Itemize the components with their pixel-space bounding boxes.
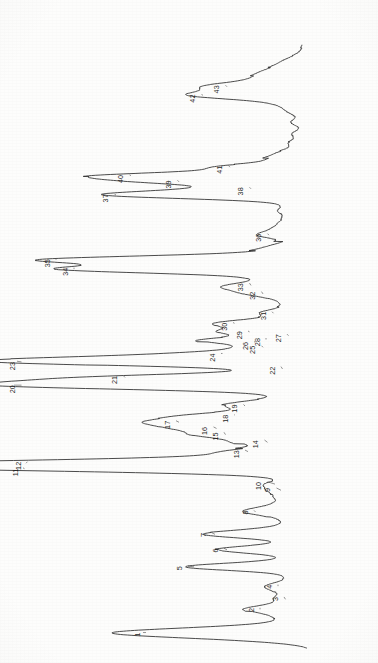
peak-leader-line <box>262 292 264 294</box>
peak-leader-line <box>244 404 246 406</box>
peak-label-32: 32 <box>248 292 257 300</box>
peak-leader-line <box>178 180 180 182</box>
peak-leader-line <box>284 597 286 599</box>
peak-leader-line <box>245 450 248 452</box>
peak-label-39: 39 <box>164 180 173 188</box>
peak-label-40: 40 <box>116 175 125 183</box>
peak-label-14: 14 <box>251 440 260 448</box>
peak-label-1: 1 <box>133 633 142 637</box>
peak-label-7: 7 <box>199 533 208 537</box>
peak-label-23: 23 <box>8 362 17 370</box>
chromatogram-figure: 1234567891011121314151617181920212223242… <box>0 0 378 663</box>
peak-label-21: 21 <box>110 376 119 384</box>
peak-leader-line <box>265 440 268 442</box>
peak-leader-line <box>130 175 132 176</box>
peak-label-20: 20 <box>8 385 17 393</box>
peak-leader-line <box>287 334 289 336</box>
peak-leader-line <box>224 548 227 550</box>
peak-label-8: 8 <box>241 510 250 514</box>
peak-label-18: 18 <box>221 415 230 423</box>
peak-label-38: 38 <box>236 187 245 195</box>
peak-label-33: 33 <box>236 283 245 291</box>
peak-leader-line <box>226 85 228 87</box>
peak-label-43: 43 <box>212 85 221 93</box>
peak-label-42: 42 <box>188 94 197 102</box>
peak-label-6: 6 <box>211 548 220 552</box>
peak-label-36: 36 <box>254 234 263 242</box>
chromatogram-plot: 1234567891011121314151617181920212223242… <box>0 0 378 663</box>
peak-label-10: 10 <box>254 482 263 490</box>
peak-label-31: 31 <box>259 312 268 320</box>
peak-leader-line <box>229 166 231 168</box>
peak-label-16: 16 <box>200 427 209 435</box>
peak-leader-line <box>176 421 179 423</box>
peak-label-17: 17 <box>163 421 172 429</box>
peak-label-41: 41 <box>215 166 224 174</box>
peak-label-15: 15 <box>211 432 220 440</box>
peak-label-5: 5 <box>175 566 184 570</box>
peak-label-24: 24 <box>208 353 217 361</box>
peak-label-22: 22 <box>268 367 277 375</box>
peak-leader-line <box>17 361 22 362</box>
peak-label-28: 28 <box>253 338 262 346</box>
peak-leader-line <box>202 94 204 95</box>
peak-label-13: 13 <box>232 450 241 458</box>
peak-leader-line <box>254 510 256 512</box>
peak-leader-line <box>124 376 126 378</box>
peak-leader-line <box>281 367 283 369</box>
peak-label-3: 3 <box>271 597 280 601</box>
peak-leader-line <box>248 331 250 332</box>
peak-label-12: 12 <box>14 462 23 470</box>
peak-label-19: 19 <box>230 404 239 412</box>
peak-leader-line <box>268 234 270 236</box>
peak-leader-line <box>214 427 217 429</box>
peak-label-27: 27 <box>274 334 283 342</box>
peak-label-2: 2 <box>247 608 256 612</box>
peak-leader-line <box>115 194 117 195</box>
peak-leader-line <box>26 462 28 464</box>
peak-leader-line <box>277 488 282 490</box>
peak-label-34: 34 <box>61 268 70 276</box>
peak-label-30: 30 <box>220 323 229 331</box>
peak-leader-line <box>250 187 252 189</box>
peak-label-26: 26 <box>241 342 250 350</box>
peak-leader-lines <box>14 85 289 632</box>
peak-leader-line <box>212 533 215 535</box>
peak-leader-line <box>233 323 235 324</box>
peak-label-37: 37 <box>101 194 110 202</box>
peak-number-labels: 1234567891011121314151617181920212223242… <box>8 85 283 636</box>
peak-leader-line <box>250 283 252 285</box>
peak-label-4: 4 <box>265 585 274 589</box>
peak-label-29: 29 <box>235 331 244 339</box>
peak-label-35: 35 <box>43 259 52 267</box>
peak-label-9: 9 <box>263 488 272 492</box>
peak-leader-line <box>224 432 226 434</box>
peak-leader-line <box>272 312 274 314</box>
